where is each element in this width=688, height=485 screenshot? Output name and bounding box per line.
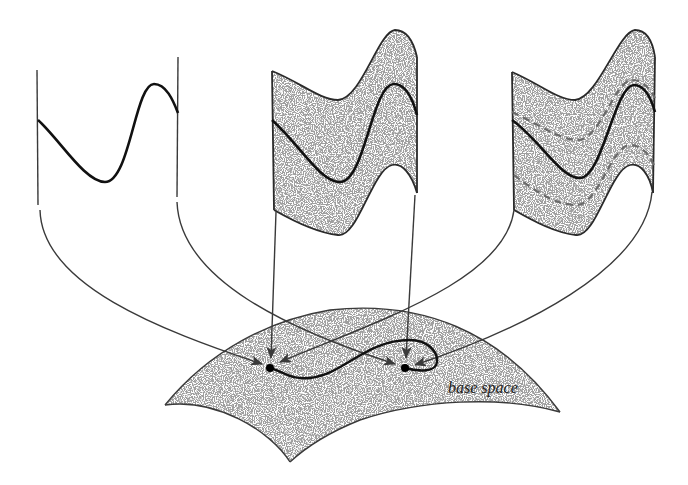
fiber-line-left [37, 70, 38, 205]
base-point-b [401, 364, 409, 372]
fiber-line-right [177, 57, 178, 197]
fiber-panel-shaded-band-dashed [508, 25, 660, 240]
fiber-bundle-diagram: base space [0, 0, 688, 485]
base-space-label: base space [448, 379, 518, 397]
projection-arrow-panel1-left [40, 210, 262, 364]
fiber-panel-shaded-band [268, 25, 423, 240]
base-point-a [266, 364, 274, 372]
section-curve [38, 84, 178, 182]
fiber-panel-single-section [37, 57, 178, 205]
